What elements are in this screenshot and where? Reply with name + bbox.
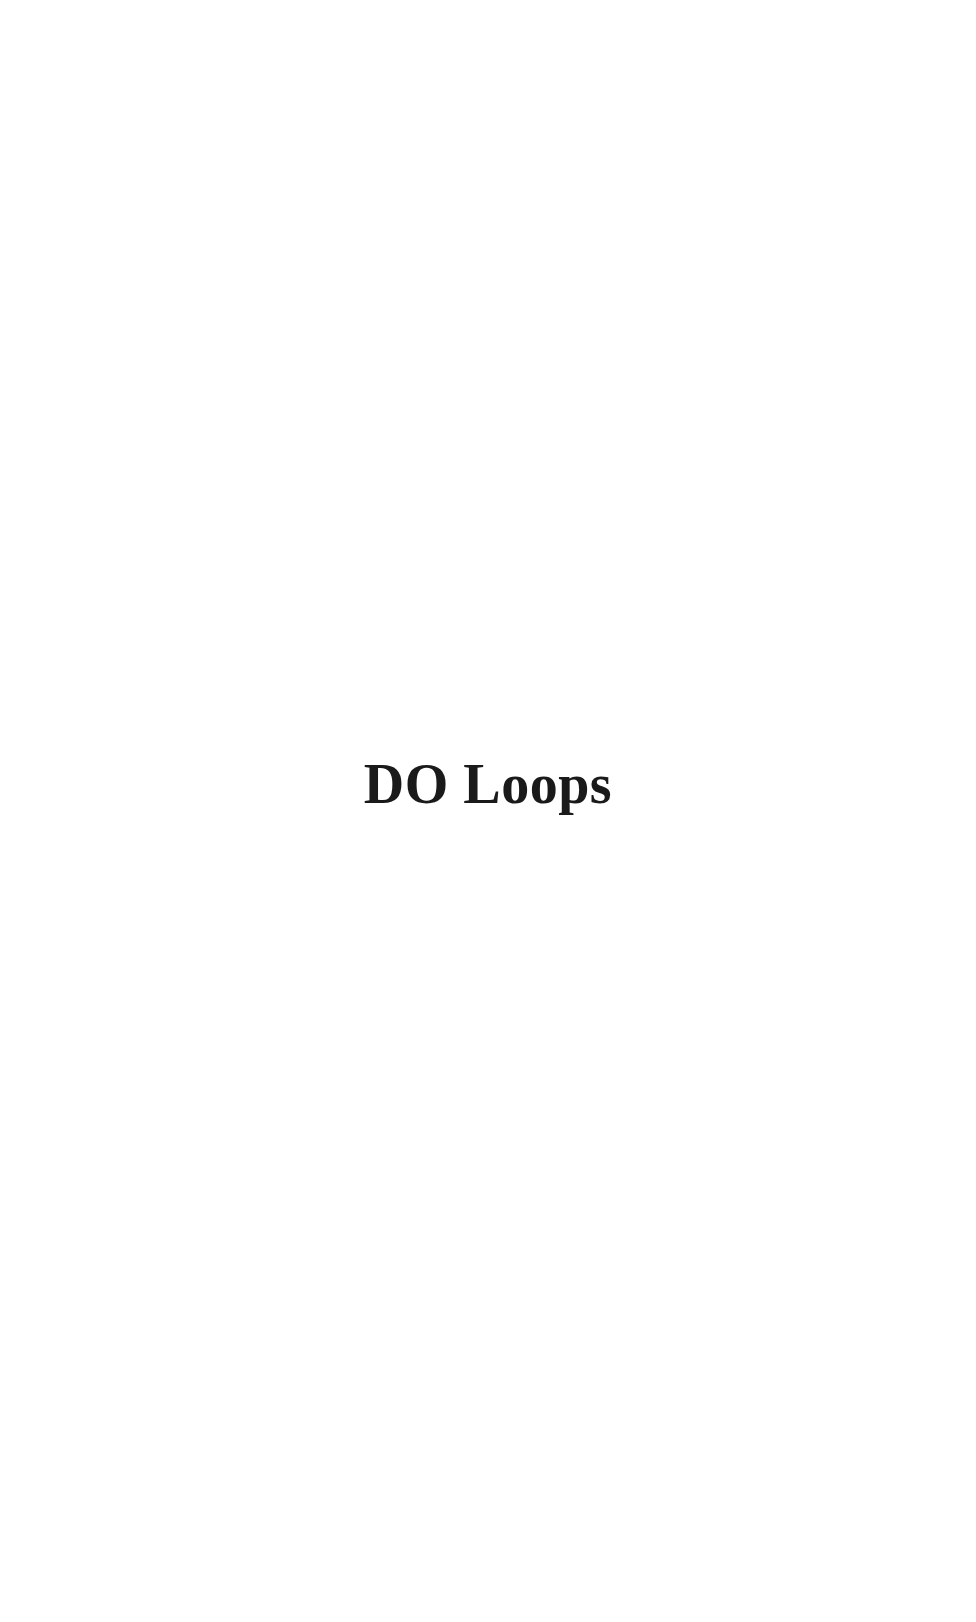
document-page: DO Loops: [0, 0, 976, 1622]
section-title: DO Loops: [0, 752, 976, 816]
